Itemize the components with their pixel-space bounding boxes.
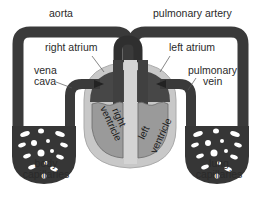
septum-left-vessel xyxy=(113,60,123,104)
label-aorta: aorta xyxy=(49,7,73,19)
label-vena-cava-2: cava xyxy=(34,75,56,87)
label-pulmonary-artery: pulmonary artery xyxy=(153,7,233,19)
septum-right-vessel xyxy=(138,60,148,104)
label-body-capillaries: body capillaries xyxy=(14,158,78,180)
label-pulmonary-vein-2: vein xyxy=(203,75,222,87)
label-lung-capillaries-line2: capillaries xyxy=(187,169,251,180)
right-atrium-leader xyxy=(92,56,104,72)
septum xyxy=(124,60,137,164)
label-left-atrium: left atrium xyxy=(169,41,215,53)
label-right-atrium: right atrium xyxy=(45,41,98,53)
label-body-capillaries-line2: capillaries xyxy=(14,169,78,180)
label-lung-capillaries: lung capillaries xyxy=(187,158,251,180)
left-atrium-leader xyxy=(160,56,170,72)
